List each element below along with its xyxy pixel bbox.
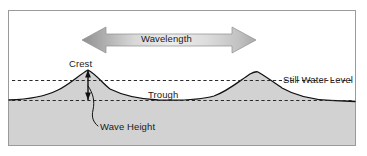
label-still-water-level: Still Water Level [283,75,353,85]
label-crest: Crest [69,59,92,69]
label-wave-height: Wave Height [100,122,155,132]
wave-diagram: Wavelength Crest Trough Still Water Leve… [0,0,367,156]
label-trough: Trough [148,90,178,100]
label-wavelength: Wavelength [141,34,192,44]
